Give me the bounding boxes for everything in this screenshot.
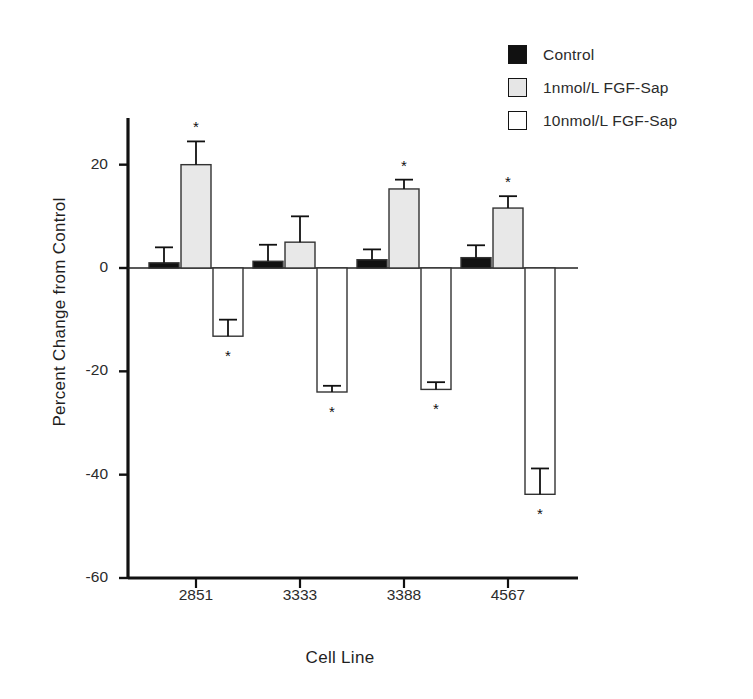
x-tick-label: 3333 <box>260 586 340 604</box>
plot-area: Percent Change from Control Cell Line 20… <box>0 0 753 699</box>
x-tick-label: 3388 <box>364 586 444 604</box>
bar <box>285 242 315 268</box>
bar <box>357 260 387 268</box>
significance-star: * <box>429 401 443 416</box>
y-tick-label: -40 <box>62 465 108 483</box>
bar <box>461 258 491 268</box>
bar <box>317 268 347 392</box>
x-tick-label: 4567 <box>468 586 548 604</box>
significance-star: * <box>189 119 203 134</box>
bar <box>181 165 211 268</box>
bar <box>421 268 451 389</box>
y-tick-label: 20 <box>62 155 108 173</box>
x-tick-label: 2851 <box>156 586 236 604</box>
significance-star: * <box>221 348 235 363</box>
significance-star: * <box>533 506 547 521</box>
bar <box>253 261 283 268</box>
y-tick-label: 0 <box>62 258 108 276</box>
significance-star: * <box>325 404 339 419</box>
figure-container: Control 1nmol/L FGF-Sap 10nmol/L FGF-Sap… <box>0 0 753 699</box>
significance-star: * <box>501 174 515 189</box>
x-axis-title: Cell Line <box>130 648 550 668</box>
bar <box>525 268 555 494</box>
y-tick-label: -60 <box>62 568 108 586</box>
y-axis-title: Percent Change from Control <box>50 147 70 477</box>
bar <box>493 208 523 268</box>
significance-star: * <box>397 158 411 173</box>
y-tick-label: -20 <box>62 361 108 379</box>
bar <box>389 189 419 268</box>
bar <box>149 263 179 268</box>
